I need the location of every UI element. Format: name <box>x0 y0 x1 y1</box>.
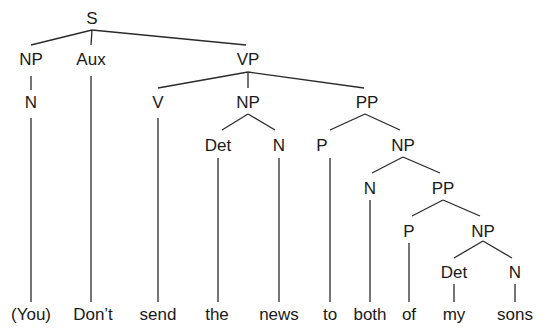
branch-line <box>454 241 483 258</box>
branch-line <box>248 114 275 130</box>
node-label-pp2: PP <box>432 179 455 198</box>
branch-line <box>248 72 364 88</box>
tree-leaves: (You)Don’tsendthenewstobothofmysons <box>11 305 533 324</box>
branch-line <box>330 114 365 130</box>
node-label-np1: NP <box>19 50 43 69</box>
leaf-word: Don’t <box>73 305 113 324</box>
node-label-n2: N <box>273 136 285 155</box>
branch-line <box>222 114 248 130</box>
leaf-word: news <box>259 305 299 324</box>
node-label-np2: NP <box>236 93 260 112</box>
leaf-word: the <box>205 305 229 324</box>
branch-line <box>91 30 92 45</box>
tree-branches <box>31 30 515 302</box>
leaf-word: of <box>402 305 416 324</box>
syntax-tree: SNPAuxVPNVNPPPDetNPNPNPPPNPDetN (You)Don… <box>0 0 548 335</box>
branch-line <box>443 200 480 216</box>
node-label-np4: NP <box>471 222 495 241</box>
branch-line <box>92 30 246 45</box>
node-label-n4: N <box>509 263 521 282</box>
node-label-n3: N <box>364 179 376 198</box>
node-label-pp1: PP <box>356 93 379 112</box>
branch-line <box>412 200 443 216</box>
node-label-aux: Aux <box>76 50 106 69</box>
node-label-det1: Det <box>205 136 232 155</box>
branch-line <box>31 30 92 45</box>
leaf-word: both <box>353 305 386 324</box>
leaf-word: to <box>323 305 337 324</box>
tree-nodes: SNPAuxVPNVNPPPDetNPNPNPPPNPDetN <box>19 9 521 282</box>
branch-line <box>158 72 248 88</box>
node-label-p1: P <box>316 136 327 155</box>
leaf-word: send <box>140 305 177 324</box>
node-label-p2: P <box>403 222 414 241</box>
node-label-v: V <box>152 93 164 112</box>
leaf-word: (You) <box>11 305 51 324</box>
node-label-np3: NP <box>391 136 415 155</box>
node-label-vp: VP <box>237 50 260 69</box>
leaf-word: my <box>443 305 466 324</box>
branch-line <box>365 114 400 130</box>
leaf-word: sons <box>497 305 533 324</box>
branch-line <box>403 157 440 173</box>
branch-line <box>483 241 512 258</box>
node-label-s: S <box>86 9 97 28</box>
branch-line <box>372 157 403 173</box>
node-label-det2: Det <box>441 263 468 282</box>
node-label-n1: N <box>25 93 37 112</box>
